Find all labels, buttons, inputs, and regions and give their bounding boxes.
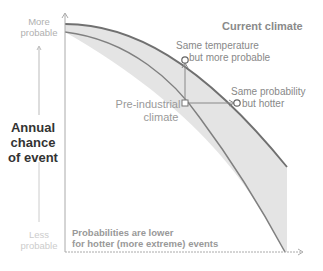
preindustrial-climate-label: Pre-industrial climate — [106, 98, 190, 123]
same-temperature-annotation: Same temperature but more probable — [176, 40, 270, 63]
y-axis-title-line2: chance — [0, 136, 66, 151]
preindustrial-line2: climate — [106, 111, 190, 124]
preindustrial-line1: Pre-industrial — [106, 98, 190, 111]
same-temperature-line1: Same temperature — [176, 40, 270, 52]
same-probability-annotation: Same probability but hotter — [231, 86, 305, 109]
less-probable-line2: probable — [9, 241, 69, 252]
same-probability-line1: Same probability — [231, 86, 305, 98]
y-axis-title-line3: of event — [0, 151, 66, 166]
y-axis-title: Annual chance of event — [0, 121, 66, 166]
same-temperature-line2: but more probable — [176, 52, 270, 64]
less-probable-label: Less probable — [9, 230, 69, 252]
current-climate-label: Current climate — [222, 20, 303, 33]
more-probable-label: More probable — [9, 17, 69, 39]
x-axis — [65, 249, 303, 255]
probabilities-note: Probabilities are lower for hotter (more… — [72, 228, 218, 250]
same-probability-line2: but hotter — [231, 98, 305, 110]
more-probable-line2: probable — [9, 28, 69, 39]
y-axis-title-line1: Annual — [0, 121, 66, 136]
probabilities-note-line2: for hotter (more extreme) events — [72, 239, 218, 250]
